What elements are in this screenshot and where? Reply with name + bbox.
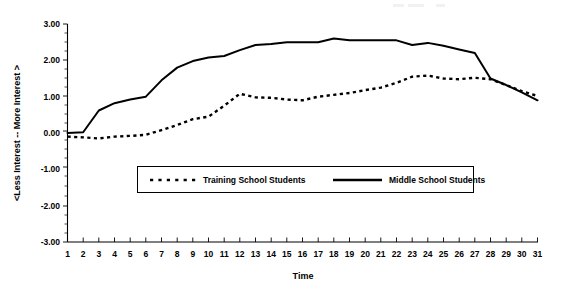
x-tick-label: 7	[159, 249, 164, 259]
x-tick-label: 28	[486, 249, 496, 259]
chart-figure: 3.002.001.000.00-1.00-2.00-3.00 12345678…	[0, 0, 563, 298]
series-line-middle-school-students	[68, 39, 538, 133]
x-tick-label: 8	[175, 249, 180, 259]
x-tick-label: 14	[266, 249, 276, 259]
x-tick-label: 26	[454, 249, 464, 259]
x-tick-label: 6	[143, 249, 148, 259]
x-tick-label: 25	[439, 249, 449, 259]
x-tick-label: 15	[282, 249, 292, 259]
x-tick-label: 21	[376, 249, 386, 259]
x-tick-label: 29	[501, 249, 511, 259]
x-tick-label: 5	[128, 249, 133, 259]
y-tick-label: 2.00	[43, 55, 60, 65]
x-tick-label: 12	[235, 249, 245, 259]
x-tick-label: 19	[345, 249, 355, 259]
legend-label-middle-school-students: Middle School Students	[389, 175, 486, 185]
x-tick-label: 31	[533, 249, 543, 259]
x-tick-label: 27	[470, 249, 480, 259]
legend-label-training-school-students: Training School Students	[203, 175, 306, 185]
x-axis-title: Time	[293, 271, 314, 281]
x-tick-label: 23	[407, 249, 417, 259]
x-tick-label: 10	[204, 249, 214, 259]
x-tick-label: 13	[251, 249, 261, 259]
y-tick-label: 1.00	[43, 92, 60, 102]
x-tick-label: 30	[517, 249, 527, 259]
series-line-training-school-students	[68, 76, 538, 139]
y-tick-label: -3.00	[41, 237, 61, 247]
y-tick-label: 3.00	[43, 19, 60, 29]
x-tick-label: 9	[190, 249, 195, 259]
x-axis-ticks	[68, 238, 538, 243]
line-chart-canvas: 3.002.001.000.00-1.00-2.00-3.00 12345678…	[0, 0, 563, 298]
x-tick-label: 11	[220, 249, 229, 259]
y-tick-label: 0.00	[43, 128, 60, 138]
x-tick-label: 2	[81, 249, 86, 259]
x-tick-label: 17	[313, 249, 323, 259]
x-axis-tick-labels: 1234567891011121314151617181920212223242…	[65, 249, 542, 259]
x-tick-label: 20	[360, 249, 370, 259]
x-tick-label: 1	[65, 249, 70, 259]
x-tick-label: 22	[392, 249, 402, 259]
x-tick-label: 4	[112, 249, 117, 259]
x-tick-label: 18	[329, 249, 339, 259]
y-axis-tick-labels: 3.002.001.000.00-1.00-2.00-3.00	[41, 19, 61, 247]
y-axis-title: <Less Interest -- More Interest >	[12, 65, 22, 201]
x-tick-label: 16	[298, 249, 308, 259]
x-tick-label: 3	[96, 249, 101, 259]
chart-legend: Training School Students Middle School S…	[138, 167, 486, 193]
y-tick-label: -2.00	[41, 201, 61, 211]
x-tick-label: 24	[423, 249, 433, 259]
scan-artifacts	[393, 4, 445, 7]
y-tick-label: -1.00	[41, 164, 61, 174]
